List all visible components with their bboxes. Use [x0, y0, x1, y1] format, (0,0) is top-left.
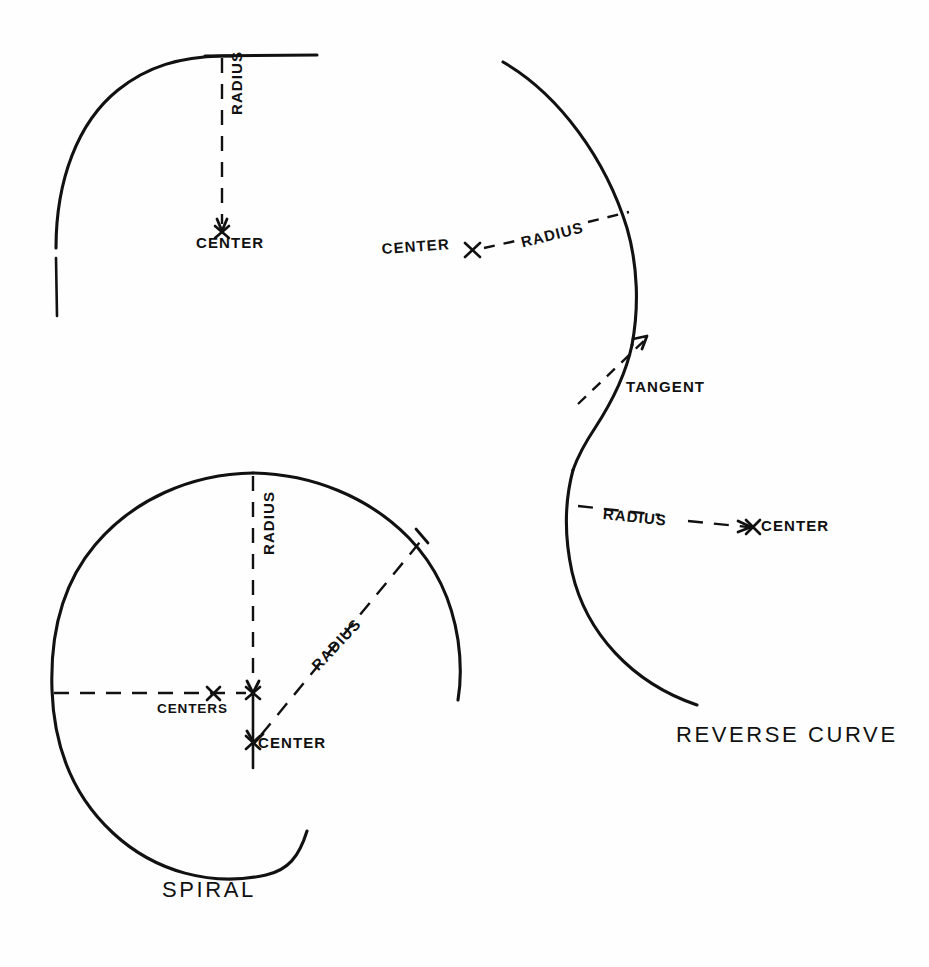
reverse-curve-upper-center-mark	[465, 243, 480, 257]
reverse-curve-tangent-label: TANGENT	[626, 378, 705, 395]
spiral-vertical-radius-label: RADIUS	[260, 491, 277, 555]
reverse-curve-lower-arc	[566, 470, 697, 705]
spiral-center-label: CENTER	[258, 734, 326, 751]
diagram-canvas: RADIUS CENTER CENTER RADIUS TANGENT RADI…	[0, 0, 929, 967]
reverse-curve-tangent-arrowhead	[633, 336, 647, 349]
spiral-centers-label: CENTERS	[157, 701, 228, 716]
reverse-curve-upper-radius-line	[484, 240, 520, 248]
simple-curve-vertical-tangent	[56, 258, 57, 316]
reverse-curve-caption: REVERSE CURVE	[676, 722, 898, 748]
reverse-curve-lower-center-label: CENTER	[761, 517, 829, 534]
spiral-upper-right-arc	[253, 473, 460, 700]
simple-curve-center-label: CENTER	[196, 234, 264, 251]
figure-spiral	[52, 473, 460, 879]
reverse-curve-upper-arc	[503, 62, 636, 345]
simple-curve-arc	[56, 56, 232, 248]
spiral-diagonal-radius-tick	[416, 529, 428, 543]
spiral-vertical-radius-arrowhead	[247, 681, 259, 693]
figure-simple-curve	[56, 55, 317, 316]
simple-curve-radius-label: RADIUS	[228, 51, 245, 115]
figure-reverse-curve	[465, 62, 760, 705]
reverse-curve-inflection-segment	[573, 345, 632, 470]
spiral-caption: SPIRAL	[162, 877, 256, 903]
diagram-vector-layer	[0, 0, 929, 967]
